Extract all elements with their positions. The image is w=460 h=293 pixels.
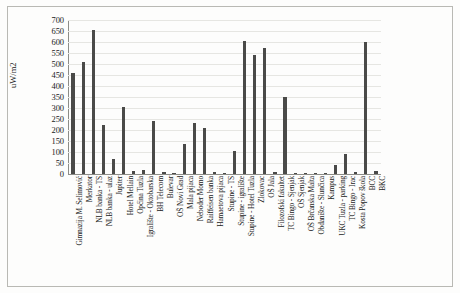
y-axis-tick-label: 500	[52, 60, 64, 69]
x-axis-category-label: NLB banka - ulaz	[106, 176, 113, 226]
bar	[183, 144, 186, 174]
bar	[132, 171, 135, 174]
bar	[294, 173, 297, 174]
bar	[172, 173, 175, 174]
y-axis-tick-label: 200	[52, 126, 64, 135]
bar	[122, 107, 125, 174]
x-axis-category-label: Općina Tuzla	[137, 176, 144, 214]
x-axis-category-label: Bulevar	[167, 176, 174, 198]
bar	[71, 73, 74, 174]
x-axis-category-label: OŠ Brčanska Malta	[308, 176, 315, 231]
bar	[82, 62, 85, 174]
x-axis-category-label: TC Bingo - Irac	[349, 176, 356, 221]
y-axis-tick-label: 50	[56, 159, 64, 168]
bar	[233, 151, 236, 174]
bar	[273, 172, 276, 174]
x-axis-category-label: BKC	[379, 176, 386, 191]
bars-layer	[68, 20, 381, 174]
x-axis-category-label: Igralište - Oktobarska	[147, 176, 154, 237]
x-axis-category-label: Mala pijaca	[187, 176, 194, 209]
y-axis-tick-labels: 7006506005505004504003503002502001501005…	[30, 20, 64, 174]
bar	[152, 121, 155, 174]
y-axis-tick-label: 0	[60, 170, 64, 179]
y-axis-tick-label: 150	[52, 137, 64, 146]
x-axis-category-label: Raiffeisen banka	[207, 176, 214, 223]
y-axis-tick-label: 300	[52, 104, 64, 113]
bar	[203, 128, 206, 174]
x-axis-category-label: Neboder Momo	[197, 176, 204, 221]
bar	[354, 172, 357, 174]
x-axis-category-label: Hamaetova pijaca	[217, 176, 224, 227]
plot-area	[68, 20, 381, 174]
bar	[102, 125, 105, 175]
bar	[223, 173, 226, 174]
x-axis-category-label: Kampus	[328, 176, 335, 200]
x-axis-category-labels: Gimnazija M. SelimovićMerkatorNLB banka …	[68, 176, 381, 288]
bar	[162, 172, 165, 174]
bar	[263, 48, 266, 175]
x-axis-category-label: TC Bingo - Sjenjak	[288, 176, 295, 231]
bar	[374, 171, 377, 174]
bar	[364, 42, 367, 174]
x-axis-category-label: Merkator	[86, 176, 93, 202]
bar-chart-figure: uW/m2 7006506005505004504003503002502001…	[0, 0, 460, 293]
x-axis-category-label: OŠ Sjenjak	[298, 176, 305, 208]
bar	[193, 123, 196, 174]
x-axis-category-label: UKC Tuzla - parking	[339, 176, 346, 236]
y-axis-tick-label: 650	[52, 27, 64, 36]
x-axis-category-label: Zlokovac	[258, 176, 265, 203]
x-axis-category-label: Stupine - Hotel Tuzla	[248, 176, 255, 236]
x-axis-category-label: Gimnazija M. Selimović	[76, 176, 83, 246]
bar	[142, 170, 145, 174]
x-axis-category-label: BCC	[369, 176, 376, 190]
x-axis-category-label: Jupiter	[116, 176, 123, 195]
y-axis-tick-label: 700	[52, 16, 64, 25]
x-axis-category-label: NLB banka - TS	[96, 176, 103, 223]
bar	[304, 173, 307, 174]
x-axis-category-label: OŠ Novi Grad	[177, 176, 184, 217]
bar	[314, 173, 317, 174]
x-axis-category-label: BH Telecom	[157, 176, 164, 212]
y-axis-tick-label: 100	[52, 148, 64, 157]
y-axis-tick-label: 250	[52, 115, 64, 124]
x-axis-category-label: Hotel Mellain	[127, 176, 134, 215]
x-axis-category-label: Obdanište - Slunčica	[318, 176, 325, 235]
bar	[253, 55, 256, 174]
bar	[243, 41, 246, 174]
x-axis-category-label: Kosta Popov škola	[359, 176, 366, 229]
y-axis-tick-label: 600	[52, 38, 64, 47]
y-axis-title: uW/m2	[9, 63, 18, 89]
y-axis-tick-label: 550	[52, 49, 64, 58]
y-axis-tick-label: 350	[52, 93, 64, 102]
bar	[112, 159, 115, 174]
bar	[92, 30, 95, 174]
bar	[324, 173, 327, 174]
x-axis-category-label: OŠ Jala	[268, 176, 275, 198]
y-axis-tick-label: 450	[52, 71, 64, 80]
x-axis-category-label: Stupine - TS	[228, 176, 235, 211]
x-axis-category-label: Stupine - igralište	[238, 176, 245, 226]
x-axis-category-label: Filozofski fakultet	[278, 176, 285, 228]
bar	[334, 165, 337, 174]
bar	[344, 154, 347, 174]
bar	[283, 97, 286, 174]
bar	[213, 172, 216, 174]
y-axis-tick-label: 400	[52, 82, 64, 91]
